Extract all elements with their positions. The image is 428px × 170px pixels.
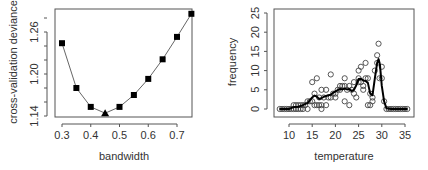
observation-circle <box>347 103 352 108</box>
observation-circle <box>375 53 380 58</box>
observed-points <box>277 41 410 111</box>
x-tick-label: 0.4 <box>83 129 98 141</box>
x-tick-label: 0.5 <box>112 129 127 141</box>
y-tick-label: 25 <box>249 7 261 19</box>
x-tick-label: 35 <box>399 129 411 141</box>
y-axis-label: cross-validation deviance <box>7 0 19 124</box>
bandwidth-cv-svg: 1.141.201.26 0.30.40.50.60.7 bandwidth c… <box>0 0 214 170</box>
y-tick-label: 15 <box>249 45 261 57</box>
y-tick-label: 20 <box>249 26 261 38</box>
observation-circle <box>358 64 363 69</box>
observation-circle <box>370 99 375 104</box>
square-marker <box>88 104 94 110</box>
plot-frame <box>274 9 414 117</box>
square-marker <box>131 92 137 98</box>
minimum-triangle-marker <box>101 109 109 116</box>
y-tick-label: 1.14 <box>28 105 40 126</box>
square-marker <box>160 56 166 62</box>
y-tick-label: 1.20 <box>28 63 40 84</box>
observation-circle <box>354 95 359 100</box>
x-tick-label: 20 <box>329 129 341 141</box>
y-tick-label: 10 <box>249 64 261 76</box>
observation-circle <box>356 68 361 73</box>
y-axis-label: frequency <box>226 37 238 86</box>
square-marker <box>174 34 180 40</box>
observation-circle <box>342 76 347 81</box>
observation-circle <box>310 80 315 85</box>
x-axis-label: bandwidth <box>99 150 149 162</box>
y-tick-label: 1.26 <box>28 21 40 42</box>
square-marker <box>73 85 79 91</box>
bandwidth-cv-chart: 1.141.201.26 0.30.40.50.60.7 bandwidth c… <box>0 0 214 170</box>
observation-circle <box>314 76 319 81</box>
x-axis: 101520253035 <box>283 124 411 141</box>
temperature-frequency-chart: 0510152025 101520253035 temperature freq… <box>214 0 428 170</box>
x-axis-label: temperature <box>314 150 373 162</box>
square-marker <box>188 11 194 17</box>
y-tick-label: 0 <box>249 106 261 112</box>
observation-circle <box>328 72 333 77</box>
x-tick-label: 0.6 <box>141 129 156 141</box>
observation-circle <box>361 87 366 92</box>
observation-circle <box>342 99 347 104</box>
x-axis: 0.30.40.50.60.7 <box>54 124 184 141</box>
observation-circle <box>376 41 381 46</box>
y-axis: 1.141.201.26 <box>28 18 47 127</box>
temperature-frequency-svg: 0510152025 101520253035 temperature freq… <box>214 0 428 170</box>
y-axis: 0510152025 <box>249 7 267 112</box>
x-tick-label: 25 <box>352 129 364 141</box>
cv-series <box>59 11 194 116</box>
y-tick-label: 5 <box>249 87 261 93</box>
square-marker <box>145 76 151 82</box>
observation-circle <box>363 60 368 65</box>
plot-frame <box>55 9 192 117</box>
x-tick-label: 15 <box>306 129 318 141</box>
x-tick-label: 0.7 <box>169 129 184 141</box>
x-tick-label: 10 <box>283 129 295 141</box>
x-tick-label: 0.3 <box>54 129 69 141</box>
x-tick-label: 30 <box>376 129 388 141</box>
square-marker <box>117 104 123 110</box>
square-marker <box>59 40 65 46</box>
